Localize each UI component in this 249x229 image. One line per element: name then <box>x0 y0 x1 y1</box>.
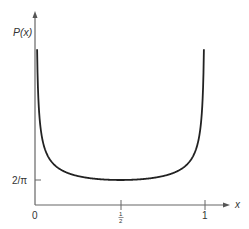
y-tick-label: 2/π <box>12 175 27 186</box>
x-tick-half-denominator: 2 <box>119 218 123 224</box>
chart-canvas: P(x) x 0 1 2 1 2/π <box>0 0 249 229</box>
x-axis-label: x <box>234 199 241 210</box>
y-axis-arrow-icon <box>33 11 38 18</box>
origin-label: 0 <box>32 210 38 221</box>
x-tick-half-numerator: 1 <box>119 211 123 217</box>
p-of-x-curve <box>37 49 204 180</box>
y-axis-label: P(x) <box>13 26 32 38</box>
x-axis-arrow-icon <box>223 203 230 208</box>
x-tick-one-label: 1 <box>202 210 208 221</box>
